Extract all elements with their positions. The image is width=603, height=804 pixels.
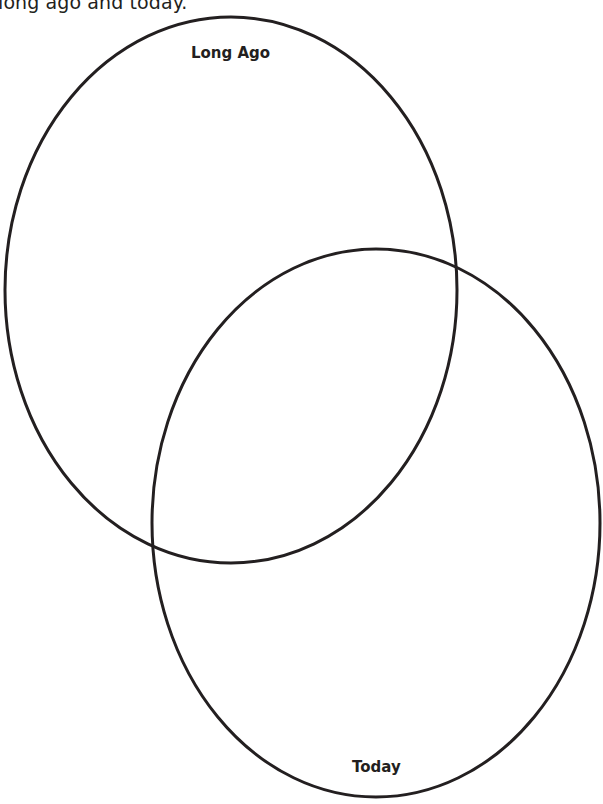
today-label: Today: [352, 758, 401, 776]
long-ago-ellipse: [5, 17, 457, 563]
venn-diagram: [0, 0, 603, 804]
long-ago-label: Long Ago: [191, 44, 270, 62]
today-ellipse: [152, 249, 600, 797]
